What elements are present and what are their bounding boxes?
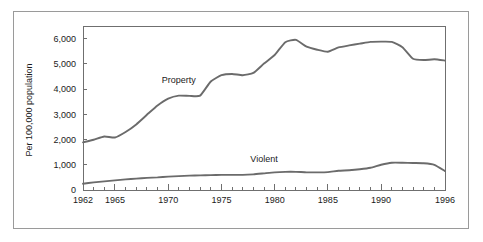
- y-axis-title: Per 100,000 population: [24, 63, 34, 156]
- y-tick-label: 1,000: [53, 160, 76, 170]
- axis-lines: [83, 26, 445, 190]
- x-tick-labels: 19621965197019751980198519901996: [73, 195, 455, 205]
- crime-rate-line-chart: Per 100,000 population 01,0002,0003,0004…: [0, 0, 483, 242]
- x-tick-label: 1970: [158, 195, 178, 205]
- x-tick-label: 1996: [435, 195, 455, 205]
- series-inline-labels: PropertyViolent: [162, 75, 278, 164]
- series-line-violent: [83, 163, 445, 184]
- x-tick-label: 1990: [371, 195, 391, 205]
- x-tick-label: 1975: [211, 195, 231, 205]
- x-tick-label: 1985: [318, 195, 338, 205]
- y-axis-title-text: Per 100,000 population: [24, 63, 34, 156]
- y-tick-label: 6,000: [53, 34, 76, 44]
- y-tick-label: 5,000: [53, 59, 76, 69]
- x-tick-label: 1980: [265, 195, 285, 205]
- chart-figure: Per 100,000 population 01,0002,0003,0004…: [0, 0, 483, 242]
- y-tick-label: 2,000: [53, 135, 76, 145]
- y-tick-label: 0: [71, 185, 76, 195]
- series-label-violent: Violent: [250, 154, 278, 164]
- axis-tick-marks: [83, 39, 445, 190]
- y-tick-labels: 01,0002,0003,0004,0005,0006,000: [53, 34, 76, 195]
- x-tick-label: 1965: [105, 195, 125, 205]
- plot-frame: [83, 26, 445, 190]
- series-line-property: [83, 40, 445, 142]
- y-tick-label: 4,000: [53, 84, 76, 94]
- x-tick-label: 1962: [73, 195, 93, 205]
- series-label-property: Property: [162, 75, 197, 85]
- y-tick-label: 3,000: [53, 110, 76, 120]
